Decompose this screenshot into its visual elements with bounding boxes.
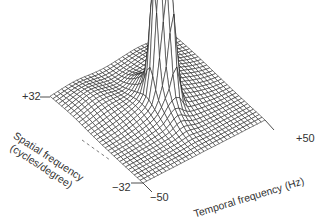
temporal-tick-left: −50	[150, 192, 169, 203]
wireframe-mesh	[50, 0, 265, 183]
spatial-tick-bottom: −32	[112, 182, 131, 193]
spatial-tick-top: +32	[22, 91, 41, 102]
temporal-tick-right: +50	[296, 133, 315, 144]
